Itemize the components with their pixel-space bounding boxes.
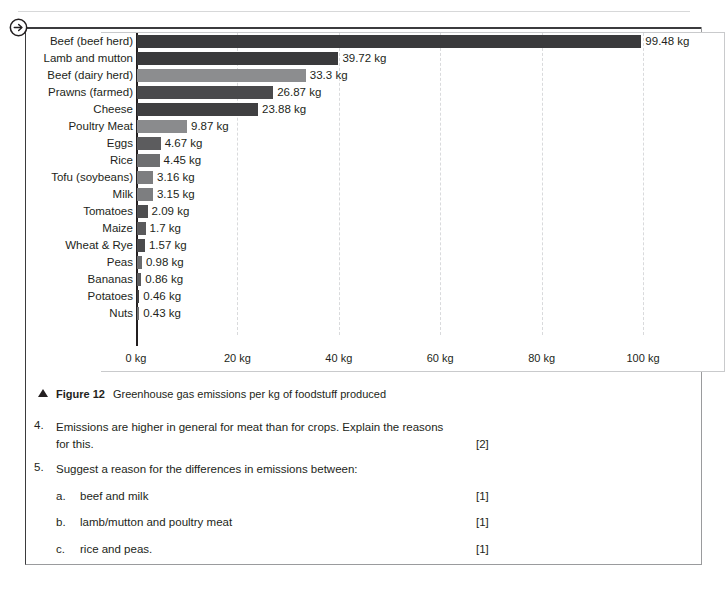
bar-and-value: 0.98 kg xyxy=(137,256,184,269)
question-body: Emissions are higher in general for meat… xyxy=(56,419,656,452)
bar xyxy=(137,120,187,133)
bar-row: Beef (beef herd)99.48 kg xyxy=(0,33,725,50)
question-item: 4.Emissions are higher in general for me… xyxy=(34,419,674,452)
bar xyxy=(137,103,258,116)
bar-value-label: 99.48 kg xyxy=(645,35,689,48)
subquestion-text: beef and milk xyxy=(80,488,148,505)
figure-label: Figure 12 xyxy=(56,388,105,400)
bar-and-value: 2.09 kg xyxy=(137,205,189,218)
bar-category-label: Lamb and mutton xyxy=(0,52,133,65)
question-text: Suggest a reason for the differences in … xyxy=(56,461,456,478)
bar-value-label: 2.09 kg xyxy=(152,205,190,218)
bar xyxy=(137,35,641,48)
bar-category-label: Nuts xyxy=(0,307,133,320)
x-tick-label: 40 kg xyxy=(325,352,352,364)
bar-value-label: 1.7 kg xyxy=(150,222,181,235)
subquestion-item: b.lamb/mutton and poultry meat[1] xyxy=(56,514,674,531)
x-tick-label: 80 kg xyxy=(528,352,555,364)
bar xyxy=(137,154,160,167)
bar xyxy=(137,239,145,252)
figure-caption-text: Greenhouse gas emissions per kg of foods… xyxy=(113,388,386,400)
bar-value-label: 3.16 kg xyxy=(157,171,195,184)
bar-row: Peas0.98 kg xyxy=(0,254,725,271)
bar-row: Wheat & Rye1.57 kg xyxy=(0,237,725,254)
bar-row: Milk3.15 kg xyxy=(0,186,725,203)
question-body: Suggest a reason for the differences in … xyxy=(56,461,656,478)
bar-category-label: Milk xyxy=(0,188,133,201)
bar-and-value: 3.16 kg xyxy=(137,171,195,184)
bar xyxy=(137,171,153,184)
bar xyxy=(137,307,139,320)
subquestion-text: rice and peas. xyxy=(80,541,152,558)
bar-category-label: Peas xyxy=(0,256,133,269)
bar-value-label: 39.72 kg xyxy=(342,52,386,65)
bar-and-value: 9.87 kg xyxy=(137,120,229,133)
bar-value-label: 0.86 kg xyxy=(145,273,183,286)
bar xyxy=(137,256,142,269)
bar-and-value: 1.7 kg xyxy=(137,222,181,235)
bar-and-value: 23.88 kg xyxy=(137,103,306,116)
bar-value-label: 9.87 kg xyxy=(191,120,229,133)
bar-value-label: 3.15 kg xyxy=(157,188,195,201)
bar-value-label: 23.88 kg xyxy=(262,103,306,116)
questions-list: 4.Emissions are higher in general for me… xyxy=(34,419,674,566)
subquestion-letter: b. xyxy=(56,514,74,531)
bar-row: Potatoes0.46 kg xyxy=(0,288,725,305)
bar-and-value: 1.57 kg xyxy=(137,239,187,252)
bar-category-label: Maize xyxy=(0,222,133,235)
bar-value-label: 33.3 kg xyxy=(310,69,348,82)
bar-category-label: Wheat & Rye xyxy=(0,239,133,252)
bar xyxy=(137,273,141,286)
subquestion-marks: [1] xyxy=(476,514,489,531)
bar-row: Poultry Meat9.87 kg xyxy=(0,118,725,135)
bar xyxy=(137,222,146,235)
bar-and-value: 39.72 kg xyxy=(137,52,387,65)
bar-row: Tofu (soybeans)3.16 kg xyxy=(0,169,725,186)
bar-and-value: 4.45 kg xyxy=(137,154,201,167)
subquestion-marks: [1] xyxy=(476,488,489,505)
subquestion-item: c.rice and peas.[1] xyxy=(56,541,674,558)
bar-and-value: 3.15 kg xyxy=(137,188,195,201)
bar xyxy=(137,188,153,201)
bar xyxy=(137,290,139,303)
bar-row: Lamb and mutton39.72 kg xyxy=(0,50,725,67)
bar-category-label: Bananas xyxy=(0,273,133,286)
bar-row: Cheese23.88 kg xyxy=(0,101,725,118)
question-marks: [2] xyxy=(476,436,489,453)
figure-caption: Figure 12 Greenhouse gas emissions per k… xyxy=(38,388,386,400)
bar-value-label: 0.43 kg xyxy=(143,307,181,320)
triangle-up-icon xyxy=(38,389,48,397)
bar-and-value: 99.48 kg xyxy=(137,35,689,48)
bar-category-label: Eggs xyxy=(0,137,133,150)
bar-category-label: Potatoes xyxy=(0,290,133,303)
bar-rows: Beef (beef herd)99.48 kgLamb and mutton3… xyxy=(0,33,725,322)
bar-row: Maize1.7 kg xyxy=(0,220,725,237)
bar xyxy=(137,52,338,65)
bar-category-label: Tofu (soybeans) xyxy=(0,171,133,184)
subquestion-text: lamb/mutton and poultry meat xyxy=(80,514,232,531)
bar-row: Tomatoes2.09 kg xyxy=(0,203,725,220)
x-tick-label: 60 kg xyxy=(427,352,454,364)
bar-row: Bananas0.86 kg xyxy=(0,271,725,288)
subquestion-letter: c. xyxy=(56,541,74,558)
question-item: 5.Suggest a reason for the differences i… xyxy=(34,461,674,557)
bar xyxy=(137,205,148,218)
bar-chart: Beef (beef herd)99.48 kgLamb and mutton3… xyxy=(0,0,725,380)
bar-and-value: 0.43 kg xyxy=(137,307,181,320)
bar-value-label: 26.87 kg xyxy=(277,86,321,99)
bar-category-label: Tomatoes xyxy=(0,205,133,218)
bar-value-label: 4.67 kg xyxy=(165,137,203,150)
bar-row: Beef (dairy herd)33.3 kg xyxy=(0,67,725,84)
circled-arrow-right-icon xyxy=(9,18,28,37)
bar-category-label: Prawns (farmed) xyxy=(0,86,133,99)
bar-row: Eggs4.67 kg xyxy=(0,135,725,152)
x-tick-label: 0 kg xyxy=(126,352,147,364)
subquestion-letter: a. xyxy=(56,488,74,505)
bar-value-label: 4.45 kg xyxy=(164,154,202,167)
x-axis-tick-labels: 0 kg20 kg40 kg60 kg80 kg100 kg xyxy=(0,352,725,368)
bar-and-value: 0.86 kg xyxy=(137,273,183,286)
bar-row: Prawns (farmed)26.87 kg xyxy=(0,84,725,101)
question-number: 5. xyxy=(34,461,54,473)
bar xyxy=(137,137,161,150)
bar-category-label: Cheese xyxy=(0,103,133,116)
